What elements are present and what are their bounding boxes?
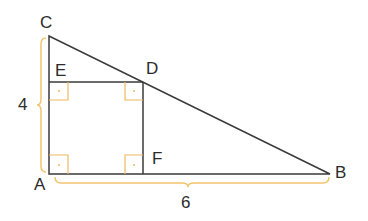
dimension-label-ac: 4 <box>18 96 27 113</box>
geometry-diagram <box>0 0 368 221</box>
right-angle-markers <box>49 82 143 174</box>
brace-ac <box>37 38 46 172</box>
point-label-b: B <box>335 164 346 181</box>
point-label-e: E <box>55 62 66 79</box>
point-label-f: F <box>152 150 162 167</box>
dimension-label-ab: 6 <box>181 194 190 211</box>
point-label-c: C <box>40 14 52 31</box>
right-angle-dots <box>58 90 135 166</box>
brace-ab <box>55 177 329 187</box>
triangle-abc <box>49 36 330 174</box>
point-label-d: D <box>146 60 158 77</box>
point-label-a: A <box>34 176 45 193</box>
